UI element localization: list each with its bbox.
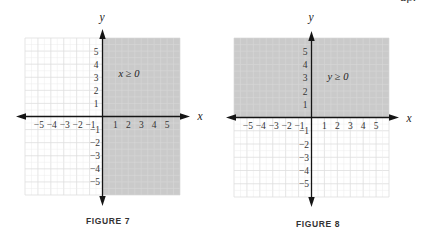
x-tick-label: −3	[60, 120, 70, 130]
x-tick-label: 1	[113, 120, 118, 130]
x-axis-label: x	[196, 110, 203, 122]
arrow-down-icon	[99, 196, 105, 206]
y-tick-label: −3	[90, 151, 100, 161]
x-tick-label: 3	[348, 121, 353, 131]
figure-7-plot: −5−4−3−2−11234554321−1−2−3−4−5	[16, 29, 190, 206]
arrow-up-icon	[308, 31, 314, 41]
y-axis-label: y	[98, 11, 105, 24]
x-tick-label: −3	[269, 121, 279, 131]
figure-caption: FIGURE 7	[86, 216, 130, 226]
y-tick-label: −5	[90, 177, 100, 187]
arrow-left-icon	[226, 114, 236, 120]
y-tick-label: 3	[303, 73, 308, 83]
y-tick-label: −5	[299, 179, 309, 189]
arrow-down-icon	[308, 197, 314, 207]
y-tick-label: 5	[94, 47, 99, 57]
x-tick-label: −4	[47, 120, 57, 130]
y-tick-label: 2	[94, 86, 99, 96]
arrow-right-icon	[180, 113, 190, 119]
x-tick-label: −2	[73, 120, 83, 130]
figures-canvas: −5−4−3−2−11234554321−1−2−3−4−5 y x x ≥ 0…	[0, 0, 422, 238]
y-tick-label: 1	[94, 99, 99, 109]
y-tick-label: 5	[303, 47, 308, 57]
y-tick-label: −4	[299, 166, 309, 176]
figure-7: −5−4−3−2−11234554321−1−2−3−4−5 y x x ≥ 0…	[16, 11, 203, 226]
y-tick-label: 2	[303, 87, 308, 97]
arrow-left-icon	[16, 113, 26, 119]
y-tick-label: 1	[303, 100, 308, 110]
x-tick-label: 2	[335, 121, 340, 131]
x-tick-label: 3	[139, 120, 144, 130]
y-tick-label: 4	[94, 60, 99, 70]
figure-caption: FIGURE 8	[296, 219, 340, 229]
x-axis-label: x	[405, 112, 412, 124]
x-tick-label: 4	[361, 121, 366, 131]
y-tick-label: 4	[303, 60, 308, 70]
x-tick-label: −4	[256, 121, 266, 131]
x-tick-label: 4	[152, 120, 157, 130]
y-tick-label: −3	[299, 153, 309, 163]
y-tick-label: −2	[299, 140, 309, 150]
x-tick-label: 5	[374, 121, 379, 131]
x-tick-label: −2	[282, 121, 292, 131]
y-tick-label: −4	[90, 164, 100, 174]
y-tick-label: 3	[94, 73, 99, 83]
arrow-up-icon	[99, 29, 105, 39]
inequality-label: y ≥ 0	[327, 71, 350, 82]
arrow-right-icon	[389, 114, 399, 120]
x-tick-label: 1	[322, 121, 327, 131]
x-tick-label: −5	[34, 120, 44, 130]
y-tick-label: −1	[299, 126, 309, 136]
y-axis-label: y	[307, 11, 314, 24]
y-tick-label: −1	[90, 125, 100, 135]
y-tick-label: −2	[90, 138, 100, 148]
inequality-label: x ≥ 0	[118, 68, 141, 79]
x-tick-label: 5	[165, 120, 170, 130]
x-tick-label: 2	[126, 120, 131, 130]
x-tick-label: −5	[243, 121, 253, 131]
figure-8: −5−4−3−2−11234554321−1−2−3−4−5 y x y ≥ 0…	[226, 11, 412, 229]
figure-8-plot: −5−4−3−2−11234554321−1−2−3−4−5	[226, 31, 399, 207]
